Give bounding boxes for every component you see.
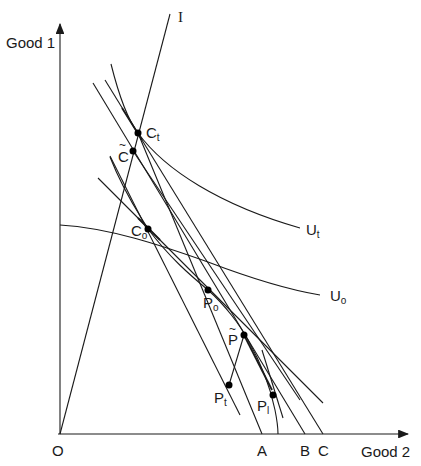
ray-I xyxy=(60,14,170,434)
ray-label: I xyxy=(178,9,183,25)
mark-A: A xyxy=(257,442,267,459)
indifference-curve-U1 xyxy=(111,64,300,228)
trade-diagram: Good 1 Good 2 O I Ut Uo Ct C ~ Co Po P ~… xyxy=(0,0,421,466)
price-line-Pt xyxy=(110,156,240,415)
production-frontier xyxy=(110,157,278,434)
price-line-B xyxy=(93,83,305,434)
y-axis-label: Good 1 xyxy=(6,34,55,51)
point-Pt xyxy=(226,382,233,389)
mark-C: C xyxy=(318,442,329,459)
mark-B: B xyxy=(300,442,310,459)
U1-label: Ut xyxy=(306,221,320,240)
tilde-Ptilde: ~ xyxy=(229,322,236,336)
price-line-A xyxy=(138,133,262,434)
U0-label: Uo xyxy=(330,287,347,306)
label-P1: Pl xyxy=(257,397,269,416)
tangency-Ptilde xyxy=(244,335,272,390)
label-Ct: Ct xyxy=(146,124,160,143)
price-line-Ctilde xyxy=(133,151,300,400)
point-Ptilde xyxy=(241,332,248,339)
tilde-Ctilde: ~ xyxy=(119,138,126,152)
point-Ct xyxy=(135,130,142,137)
x-axis-label: Good 2 xyxy=(361,443,410,460)
label-Pt: Pt xyxy=(214,389,227,408)
point-Ctilde xyxy=(130,148,137,155)
point-Po xyxy=(205,287,212,294)
origin-label: O xyxy=(52,442,64,459)
point-P1 xyxy=(270,392,277,399)
